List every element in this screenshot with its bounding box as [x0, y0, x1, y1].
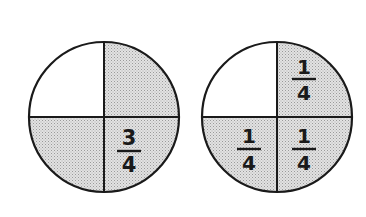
numerator: 1 [297, 55, 311, 79]
right-circle: 1 4 1 4 1 4 [202, 42, 352, 192]
numerator: 1 [242, 124, 256, 148]
denominator: 4 [242, 151, 256, 175]
denominator: 4 [297, 151, 311, 175]
denominator: 4 [297, 81, 311, 105]
fraction-diagram: 3 4 1 4 1 4 1 4 [0, 0, 366, 217]
numerator: 3 [122, 126, 137, 150]
left-circle: 3 4 [29, 42, 179, 192]
denominator: 4 [122, 153, 137, 177]
numerator: 1 [297, 124, 311, 148]
